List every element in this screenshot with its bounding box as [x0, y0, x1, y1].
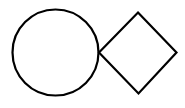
diagram-canvas	[0, 0, 185, 108]
circle-shape	[13, 10, 99, 96]
